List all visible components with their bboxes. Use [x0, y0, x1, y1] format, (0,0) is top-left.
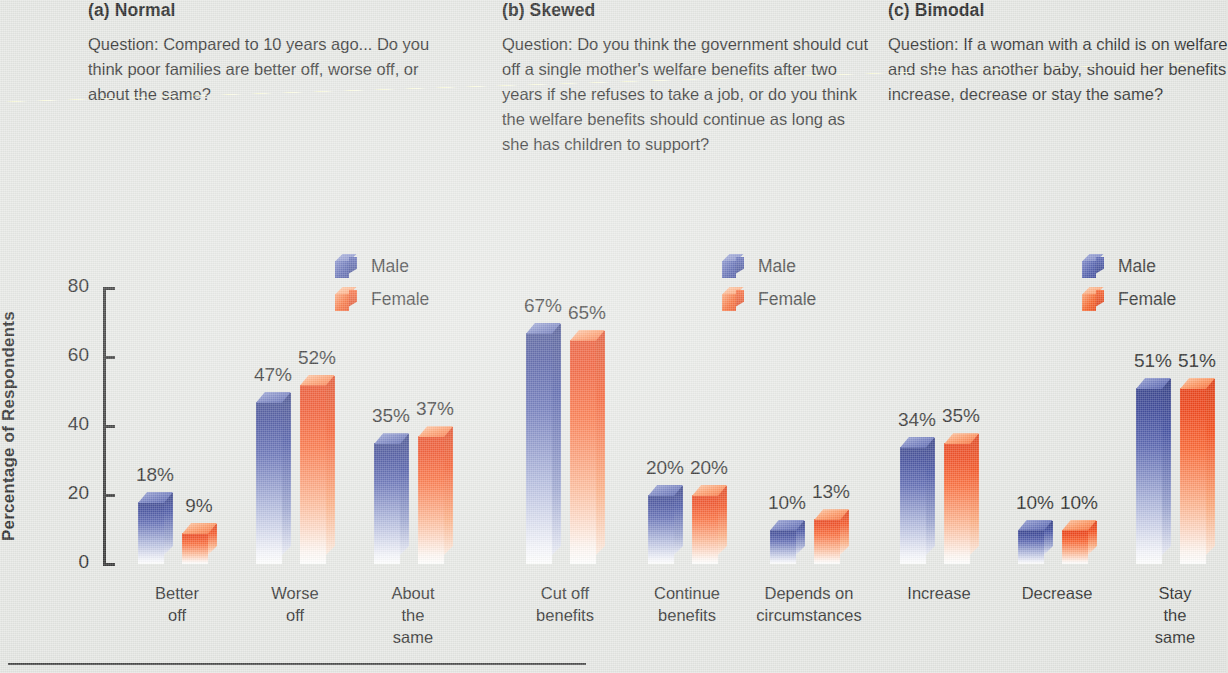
legend-label-male: Male: [758, 256, 796, 277]
bar-front-face: [692, 495, 718, 564]
legend-item-male: Male: [335, 250, 429, 283]
bar-female-1: [692, 495, 718, 564]
bar-side-face: [926, 438, 935, 555]
bar-male-1: [1018, 530, 1044, 565]
bar-male-1: [256, 402, 282, 564]
y-tick-label: 40: [43, 413, 89, 435]
bar-female-0: [570, 340, 596, 564]
bar-female-1: [1062, 530, 1088, 565]
bar-front-face: [256, 402, 282, 564]
bar-value-label: 35%: [942, 405, 980, 427]
bar-front-face: [1018, 530, 1044, 565]
bar-front-face: [1136, 388, 1162, 564]
bar-value-label: 13%: [812, 481, 850, 503]
bar-male-2: [770, 530, 796, 565]
bar-front-face: [648, 495, 674, 564]
legend-item-female: Female: [1082, 283, 1176, 316]
bar-front-face: [570, 340, 596, 564]
x-category-label: Worse off: [271, 582, 318, 626]
bar-side-face: [970, 434, 979, 555]
bar-value-label: 51%: [1178, 350, 1216, 372]
bar-side-face: [718, 486, 727, 555]
female-cube-icon: [1082, 287, 1104, 313]
legend-skewed: Male Female: [722, 250, 816, 316]
bar-side-face: [552, 324, 561, 555]
bar-value-label: 18%: [136, 464, 174, 486]
legend-item-male: Male: [1082, 250, 1176, 283]
bar-value-label: 9%: [185, 495, 212, 517]
legend-item-female: Female: [335, 283, 429, 316]
bar-female-0: [944, 443, 970, 564]
y-tick-label: 0: [43, 551, 89, 573]
bar-value-label: 35%: [372, 405, 410, 427]
plot-bimodal: 34%35%Increase10%10%Decrease51%51%Stay t…: [880, 282, 1220, 570]
bar-front-face: [182, 533, 208, 564]
bar-male-0: [900, 447, 926, 564]
panel-title-b: (b) Skewed: [502, 0, 874, 21]
bar-side-face: [1206, 379, 1215, 555]
y-tick-label: 80: [43, 275, 89, 297]
bar-front-face: [1180, 388, 1206, 564]
x-category-label: Decrease: [1022, 582, 1093, 604]
bar-value-label: 34%: [898, 409, 936, 431]
panel-question-c: Question: If a woman with a child is on …: [888, 32, 1228, 107]
legend-label-female: Female: [1118, 289, 1176, 310]
bar-value-label: 20%: [690, 457, 728, 479]
bar-front-face: [138, 502, 164, 564]
bar-side-face: [400, 434, 409, 555]
bar-value-label: 52%: [298, 347, 336, 369]
bar-side-face: [164, 493, 173, 555]
bar-value-label: 10%: [1060, 492, 1098, 514]
female-cube-icon: [335, 287, 357, 313]
plot-skewed: 67%65%Cut off benefits20%20%Continue ben…: [500, 282, 872, 570]
bar-value-label: 51%: [1134, 350, 1172, 372]
bar-value-label: 10%: [1016, 492, 1054, 514]
plot-normal: 18%9%Better off47%52%Worse off35%37%Abou…: [110, 282, 470, 570]
bar-female-2: [814, 519, 840, 564]
x-category-label: Continue benefits: [654, 582, 720, 626]
panel-bimodal: (c) Bimodal Question: If a woman with a …: [888, 0, 1228, 107]
legend-label-female: Female: [758, 289, 816, 310]
legend-label-female: Female: [371, 289, 429, 310]
bar-front-face: [900, 447, 926, 564]
panel-question-b: Question: Do you think the government sh…: [502, 32, 874, 157]
bar-value-label: 67%: [524, 295, 562, 317]
bar-male-0: [138, 502, 164, 564]
x-category-label: Stay the same: [1153, 582, 1198, 648]
bar-female-1: [300, 385, 326, 564]
bar-value-label: 10%: [768, 492, 806, 514]
x-category-label: About the same: [385, 582, 442, 648]
bar-male-1: [648, 495, 674, 564]
legend-normal: Male Female: [335, 250, 429, 316]
bar-side-face: [444, 427, 453, 555]
bar-front-face: [944, 443, 970, 564]
bar-front-face: [300, 385, 326, 564]
legend-item-male: Male: [722, 250, 816, 283]
legend-label-male: Male: [371, 256, 409, 277]
female-cube-icon: [722, 287, 744, 313]
bar-front-face: [814, 519, 840, 564]
bar-female-2: [418, 436, 444, 564]
x-category-label: Increase: [907, 582, 970, 604]
y-tick-label: 60: [43, 344, 89, 366]
x-category-label: Depends on circumstances: [756, 582, 861, 626]
bar-front-face: [526, 333, 552, 564]
bar-female-2: [1180, 388, 1206, 564]
bar-side-face: [1162, 379, 1171, 555]
y-tick-label: 20: [43, 482, 89, 504]
bar-side-face: [674, 486, 683, 555]
y-axis-label: Percentage of Respondents: [0, 288, 26, 564]
bar-male-0: [526, 333, 552, 564]
male-cube-icon: [335, 254, 357, 280]
bar-value-label: 20%: [646, 457, 684, 479]
bar-side-face: [282, 393, 291, 555]
y-axis: 020406080: [95, 282, 109, 570]
bar-male-2: [1136, 388, 1162, 564]
male-cube-icon: [1082, 254, 1104, 280]
x-category-label: Cut off benefits: [536, 582, 594, 626]
bar-value-label: 37%: [416, 398, 454, 420]
x-category-label: Better off: [155, 582, 199, 626]
bar-front-face: [1062, 530, 1088, 565]
legend-label-male: Male: [1118, 256, 1156, 277]
bar-value-label: 65%: [568, 302, 606, 324]
